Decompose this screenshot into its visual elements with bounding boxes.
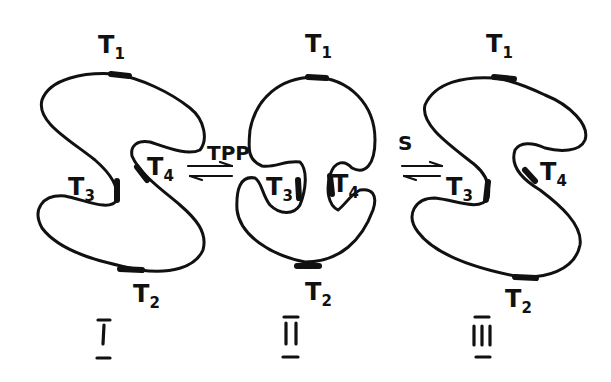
label-t2: T2: [305, 278, 332, 310]
site-t1-marker: [308, 77, 326, 78]
site-t3-marker: [486, 182, 488, 200]
label-t2: T2: [133, 280, 160, 312]
equilibrium-i-ii: TPP: [188, 141, 250, 180]
label-t1: T1: [486, 30, 513, 62]
site-t2-marker: [120, 269, 142, 270]
label-t4: T4: [540, 158, 567, 190]
state-ii-outline: [237, 77, 375, 262]
label-t3: T3: [68, 173, 95, 205]
label-t3: T3: [266, 173, 293, 205]
state-ii: T1 T2 T3 T4 II: [0, 0, 375, 357]
state-iii: T1 T2 T3 T4 III: [0, 0, 586, 357]
state-i: T1 T2 T3 T4 I: [0, 0, 204, 358]
roman-label-i: I: [0, 0, 110, 358]
label-t1: T1: [98, 31, 125, 63]
site-t1-marker: [494, 77, 514, 79]
site-t4-marker: [137, 167, 147, 180]
state-i-outline: [38, 74, 204, 272]
site-t1-marker: [111, 74, 129, 76]
label-t4: T4: [332, 170, 359, 202]
equilibrium-ii-iii: S: [398, 131, 442, 180]
label-t4: T4: [147, 153, 174, 185]
site-t2-marker: [515, 277, 536, 278]
conformation-diagram: T1 T2 T3 T4 I TPP T1 T2 T3 T4: [0, 0, 611, 382]
label-t2: T2: [505, 285, 532, 317]
equilibrium-label-s: S: [398, 131, 412, 155]
label-t3: T3: [446, 173, 473, 205]
equilibrium-label-tpp: TPP: [207, 141, 250, 165]
site-t3-marker: [298, 180, 299, 198]
label-t1: T1: [305, 30, 332, 62]
